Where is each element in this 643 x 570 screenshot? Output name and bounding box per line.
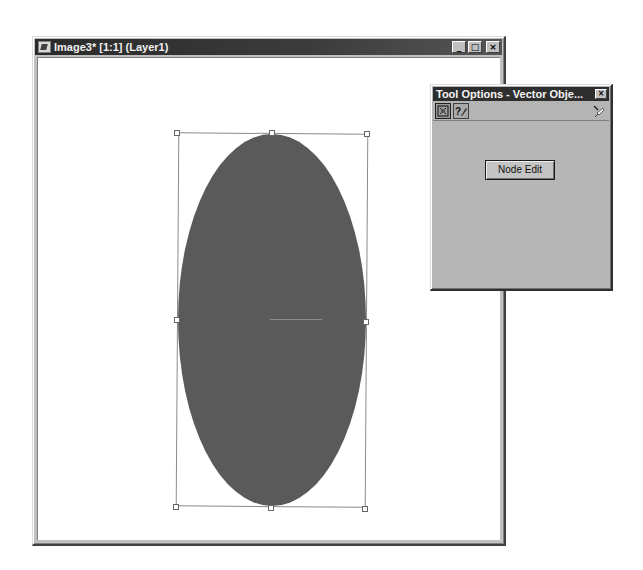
pushpin-icon bbox=[592, 104, 606, 118]
tool-options-palette[interactable]: Tool Options - Vector Obje... × ? Nod bbox=[430, 84, 613, 291]
maximize-button[interactable]: □ bbox=[468, 41, 482, 53]
resize-handle-middle-right[interactable] bbox=[363, 319, 369, 325]
pushpin-button[interactable] bbox=[592, 104, 606, 118]
node-edit-button[interactable]: Node Edit bbox=[485, 160, 555, 180]
resize-handle-bottom-right[interactable] bbox=[362, 506, 368, 512]
svg-text:?: ? bbox=[455, 106, 461, 117]
image-window-titlebar[interactable]: Image3* [1:1] (Layer1) _ □ × bbox=[35, 39, 502, 55]
resize-handle-top-center[interactable] bbox=[269, 130, 275, 136]
minimize-button[interactable]: _ bbox=[452, 41, 466, 53]
resize-handle-middle-left[interactable] bbox=[174, 317, 180, 323]
resize-handle-bottom-center[interactable] bbox=[268, 505, 274, 511]
tool-options-titlebar[interactable]: Tool Options - Vector Obje... × bbox=[433, 87, 609, 101]
close-button[interactable]: × bbox=[486, 41, 500, 53]
tool-options-close-button[interactable]: × bbox=[595, 89, 607, 99]
resize-handle-bottom-left[interactable] bbox=[173, 504, 179, 510]
vector-object-tool-icon bbox=[437, 105, 449, 117]
vector-object-tool-tab[interactable] bbox=[435, 103, 451, 119]
tool-options-tabs: ? bbox=[433, 102, 609, 121]
help-pen-icon: ? bbox=[455, 105, 467, 117]
tool-options-body: Node Edit bbox=[433, 122, 609, 287]
help-pen-tab[interactable]: ? bbox=[453, 103, 469, 119]
image-document-icon bbox=[38, 41, 51, 53]
selection-bounding-box bbox=[176, 132, 369, 507]
image-window-title: Image3* [1:1] (Layer1) bbox=[54, 41, 168, 53]
tool-options-title: Tool Options - Vector Obje... bbox=[436, 88, 583, 100]
resize-handle-top-right[interactable] bbox=[364, 131, 370, 137]
resize-handle-top-left[interactable] bbox=[174, 130, 180, 136]
